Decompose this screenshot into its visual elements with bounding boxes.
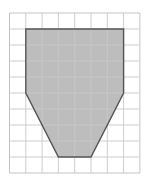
- grid-diagram: [0, 0, 149, 184]
